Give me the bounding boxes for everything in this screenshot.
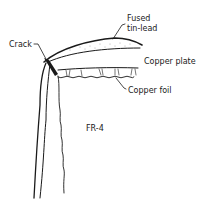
fused-tin-lead-layer <box>44 38 142 62</box>
label-copper-foil: Copper foil <box>128 86 172 95</box>
copper-plate-boundary <box>58 68 138 70</box>
label-tin-lead: tin-lead <box>127 24 157 33</box>
copper-foil-layer <box>58 69 136 78</box>
label-crack: Crack <box>9 40 32 49</box>
label-fr4: FR-4 <box>86 124 104 133</box>
fused-leader <box>113 24 125 39</box>
pcb-crack-cross-section: Fused tin-lead Crack Copper plate Copper… <box>0 0 208 207</box>
crack-leader <box>34 44 46 59</box>
hole-wall <box>34 63 64 198</box>
label-fused: Fused <box>127 14 150 23</box>
label-copper-plate: Copper plate <box>144 57 196 66</box>
foil-leader <box>116 78 126 89</box>
